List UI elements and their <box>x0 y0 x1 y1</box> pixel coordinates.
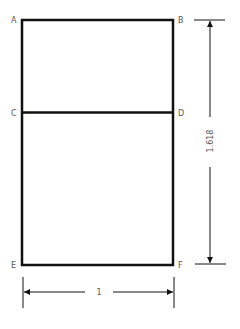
height-dimension-label: 1.618 <box>206 130 215 153</box>
point-label-b: B <box>178 16 184 25</box>
point-label-f: F <box>178 261 183 270</box>
point-label-d: D <box>178 109 184 118</box>
outer-rectangle <box>22 20 173 265</box>
point-label-e: E <box>11 261 16 270</box>
golden-rectangle-diagram: A B C D E F 1.618 1 <box>0 0 240 329</box>
width-dimension-label: 1 <box>96 288 101 297</box>
point-label-c: C <box>11 109 17 118</box>
point-label-a: A <box>11 16 17 25</box>
